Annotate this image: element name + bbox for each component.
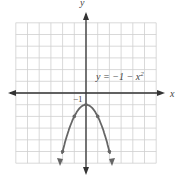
x-axis-right-arrow-icon [157, 90, 165, 96]
y-axis-bottom-arrow-icon [83, 167, 89, 175]
y-axis-label: y [79, 0, 85, 8]
curve-point [61, 150, 65, 154]
curve-point [108, 150, 112, 154]
x-axis-left-arrow-icon [8, 90, 16, 96]
curve-left-arrow-icon [57, 158, 63, 166]
curve-point [73, 115, 77, 119]
curve-right-arrow-icon [109, 158, 115, 166]
equation-label: y = −1 − x2 [95, 70, 144, 82]
parabola-graph: y x y = −1 − x2 −1 [0, 0, 176, 177]
y-axis-top-arrow-icon [83, 12, 89, 20]
curve-point [84, 103, 88, 107]
curve-point [96, 115, 100, 119]
vertex-label: −1 [73, 94, 83, 104]
x-axis-label: x [169, 88, 175, 99]
